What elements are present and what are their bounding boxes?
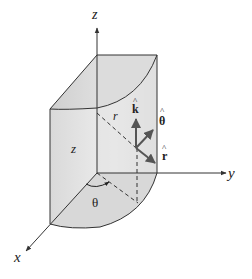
diagram-canvas: z y x z r θ k ^ θ ^ r ^ [0,0,252,279]
y-axis-label: y [226,165,235,181]
theta-hat-label: θ [159,114,165,128]
radius-label: r [113,109,118,123]
z-axis-label: z [91,7,98,22]
cylindrical-coordinates-figure: z y x z r θ k ^ θ ^ r ^ [0,0,252,279]
angle-label: θ [92,195,98,210]
height-label: z [70,141,76,156]
x-axis-label: x [13,249,21,265]
